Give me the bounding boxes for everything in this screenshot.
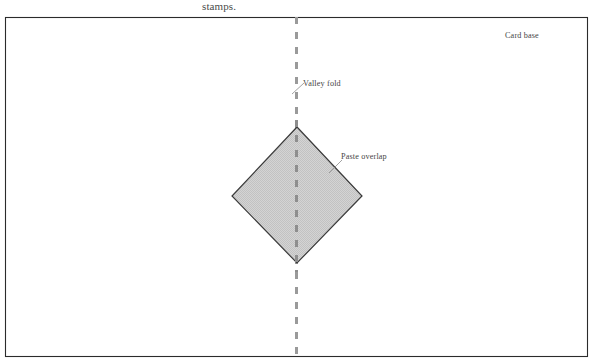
card-base-diagram: Card base Valley fold Paste overlap [0,0,594,364]
paste-overlap-label: Paste overlap [341,152,387,161]
card-base-label: Card base [505,31,539,40]
diagram-canvas: stamps. Card base Valley fold Paste over… [0,0,594,364]
valley-fold-label: Valley fold [303,79,341,88]
